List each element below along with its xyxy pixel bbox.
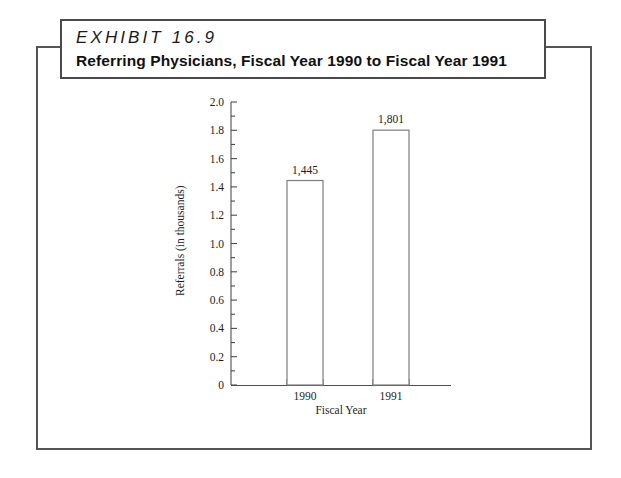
exhibit-frame	[36, 46, 592, 450]
exhibit-title-box: EXHIBIT 16.9 Referring Physicians, Fisca…	[60, 19, 546, 79]
exhibit-subtitle: Referring Physicians, Fiscal Year 1990 t…	[76, 49, 544, 73]
exhibit-number: EXHIBIT 16.9	[76, 27, 544, 49]
